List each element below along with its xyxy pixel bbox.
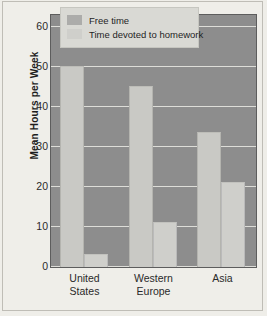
y-axis-tick-labels: 0102030405060: [22, 0, 48, 316]
y-tick-label: 0: [26, 260, 48, 272]
legend-item-free-time: Free time: [67, 13, 192, 27]
x-tick-label-asia: Asia: [188, 272, 257, 312]
chart-legend: Free time Time devoted to homework: [60, 7, 199, 48]
y-tick-label: 60: [26, 20, 48, 32]
bar-asia-series-2: [221, 182, 245, 267]
y-tick-label: 50: [26, 60, 48, 72]
legend-item-homework: Time devoted to homework: [67, 27, 192, 41]
bar-western-europe-series-2: [153, 222, 177, 267]
y-tick-label: 40: [26, 100, 48, 112]
y-tick-label: 30: [26, 140, 48, 152]
x-tick-label-united-states: UnitedStates: [50, 272, 119, 312]
plot-area: [50, 14, 257, 268]
bar-united-states-series-1: [60, 66, 84, 267]
y-tick-label: 10: [26, 220, 48, 232]
bar-western-europe-series-1: [129, 86, 153, 267]
bar-united-states-series-2: [84, 254, 108, 267]
y-tick-label: 20: [26, 180, 48, 192]
legend-label-homework: Time devoted to homework: [89, 29, 203, 40]
chart-figure: Mean Hours per Week 0102030405060 Free t…: [0, 0, 267, 316]
legend-label-free-time: Free time: [89, 15, 129, 26]
x-tick-label-western-europe: WesternEurope: [119, 272, 188, 312]
bar-asia-series-1: [197, 132, 221, 267]
legend-swatch-free-time: [67, 15, 82, 25]
x-axis-tick-labels: UnitedStatesWesternEuropeAsia: [50, 272, 257, 312]
legend-swatch-homework: [67, 29, 82, 39]
